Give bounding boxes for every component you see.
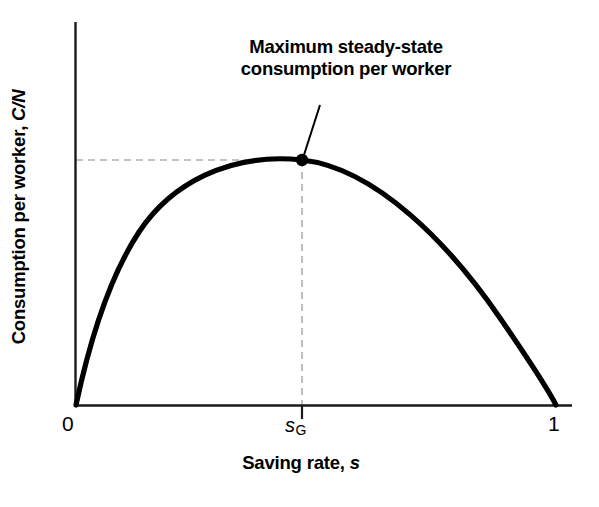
consumption-curve — [76, 159, 556, 405]
annotation-label: Maximum steady-state consumption per wor… — [186, 36, 506, 80]
x-axis-title-math: s — [350, 452, 360, 473]
annotation-leader-line — [303, 105, 320, 158]
consumption-per-worker-chart: Maximum steady-state consumption per wor… — [0, 0, 599, 507]
annotation-line-2: consumption per worker — [241, 58, 451, 79]
x-axis-title: Saving rate, s — [176, 452, 426, 474]
x-axis-title-text: Saving rate, — [242, 452, 349, 473]
annotation-line-1: Maximum steady-state — [249, 36, 442, 57]
x-tick-label-one: 1 — [548, 412, 560, 437]
x-tick-label-sg-symbol: s — [285, 414, 295, 436]
y-axis-title-text: Consumption per worker, — [8, 121, 29, 344]
y-axis-title: Consumption per worker, C/N — [8, 2, 46, 432]
y-axis-title-math: C/N — [8, 90, 29, 121]
x-tick-label-sg-subscript: G — [296, 422, 307, 438]
x-tick-label-zero: 0 — [62, 412, 74, 437]
x-tick-label-sg: sG — [285, 414, 306, 438]
golden-rule-point-marker — [296, 154, 308, 166]
